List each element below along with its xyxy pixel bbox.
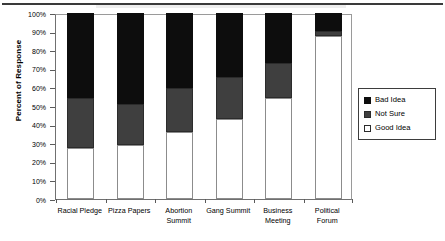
bar-segment-bad-idea[interactable] xyxy=(166,13,193,88)
bar-abortion-summit[interactable] xyxy=(166,13,193,199)
x-tick-mark xyxy=(56,199,57,203)
bar-segment-not-sure[interactable] xyxy=(117,104,144,145)
x-label-line: Meeting xyxy=(253,216,303,226)
bar-segment-good-idea[interactable] xyxy=(67,148,94,199)
bar-segment-good-idea[interactable] xyxy=(265,98,292,199)
x-label-pizza-papers: Pizza Papers xyxy=(105,206,155,216)
x-label-line: Summit xyxy=(154,216,204,226)
x-label-line: Gang Summit xyxy=(204,206,254,216)
x-label-line: Political xyxy=(303,206,353,216)
bar-segment-bad-idea[interactable] xyxy=(216,13,243,77)
x-tick-mark xyxy=(254,199,255,203)
legend-swatch-bad-idea-icon xyxy=(364,97,371,104)
x-label-political-forum: PoliticalForum xyxy=(303,206,353,225)
legend-label-bad-idea: Bad Idea xyxy=(375,96,405,104)
x-label-line: Pizza Papers xyxy=(105,206,155,216)
x-label-line: Abortion xyxy=(154,206,204,216)
x-label-gang-summit: Gang Summit xyxy=(204,206,254,216)
bar-political-forum[interactable] xyxy=(315,13,342,199)
y-tick-mark xyxy=(50,200,55,201)
bar-business-meeting[interactable] xyxy=(265,13,292,199)
y-tick-label: 100% xyxy=(0,11,46,18)
bar-segment-good-idea[interactable] xyxy=(166,132,193,199)
bar-segment-not-sure[interactable] xyxy=(216,77,243,119)
y-tick-label: 70% xyxy=(0,66,46,73)
y-tick-label: 30% xyxy=(0,141,46,148)
bar-segment-bad-idea[interactable] xyxy=(315,13,342,31)
x-tick-mark xyxy=(352,199,353,203)
chart-legend: Bad Idea Not Sure Good Idea xyxy=(358,88,436,140)
legend-label-good-idea: Good Idea xyxy=(375,124,410,132)
y-tick-label: 50% xyxy=(0,104,46,111)
bar-gang-summit[interactable] xyxy=(216,13,243,199)
y-axis-tick-labels: 0%10%20%30%40%50%60%70%80%90%100% xyxy=(0,0,55,241)
x-label-racial-pledge: Racial Pledge xyxy=(55,206,105,216)
bar-segment-not-sure[interactable] xyxy=(67,98,94,148)
y-tick-label: 40% xyxy=(0,122,46,129)
x-tick-mark xyxy=(304,199,305,203)
y-tick-label: 60% xyxy=(0,85,46,92)
bar-segment-not-sure[interactable] xyxy=(265,63,292,97)
bar-segment-bad-idea[interactable] xyxy=(117,13,144,104)
x-tick-mark xyxy=(155,199,156,203)
x-tick-mark xyxy=(106,199,107,203)
x-label-line: Business xyxy=(253,206,303,216)
bar-racial-pledge[interactable] xyxy=(67,13,94,199)
legend-swatch-good-idea-icon xyxy=(364,125,371,132)
y-tick-label: 0% xyxy=(0,197,46,204)
plot-area xyxy=(55,14,352,200)
x-label-business-meeting: BusinessMeeting xyxy=(253,206,303,225)
x-axis-category-labels: Racial PledgePizza PapersAbortionSummitG… xyxy=(55,204,352,238)
y-tick-label: 80% xyxy=(0,48,46,55)
y-tick-label: 90% xyxy=(0,29,46,36)
legend-item-bad-idea[interactable]: Bad Idea xyxy=(364,93,435,107)
cropped-title-remnant xyxy=(96,5,346,8)
legend-swatch-not-sure-icon xyxy=(364,111,371,118)
plot-inner xyxy=(56,15,351,199)
x-label-line: Forum xyxy=(303,216,353,226)
chart-container: Percent of Response 0%10%20%30%40%50%60%… xyxy=(0,0,445,241)
bar-segment-bad-idea[interactable] xyxy=(67,13,94,98)
x-tick-mark xyxy=(205,199,206,203)
x-label-line: Racial Pledge xyxy=(55,206,105,216)
legend-item-not-sure[interactable]: Not Sure xyxy=(364,107,435,121)
bar-segment-not-sure[interactable] xyxy=(166,88,193,132)
bar-segment-bad-idea[interactable] xyxy=(265,13,292,63)
bar-segment-good-idea[interactable] xyxy=(216,119,243,199)
bar-pizza-papers[interactable] xyxy=(117,13,144,199)
y-tick-label: 20% xyxy=(0,159,46,166)
legend-label-not-sure: Not Sure xyxy=(375,110,405,118)
legend-item-good-idea[interactable]: Good Idea xyxy=(364,121,435,135)
x-label-abortion-summit: AbortionSummit xyxy=(154,206,204,225)
bar-segment-good-idea[interactable] xyxy=(117,145,144,199)
y-tick-label: 10% xyxy=(0,178,46,185)
bar-segment-good-idea[interactable] xyxy=(315,36,342,199)
